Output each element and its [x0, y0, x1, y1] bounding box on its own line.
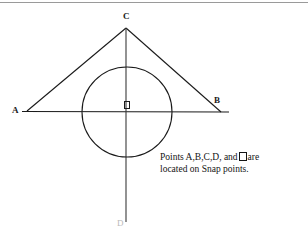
caption-line-1: Points A,B,C,D, andare	[160, 152, 306, 164]
segment-side-CB	[126, 28, 221, 112]
caption-line-2: located on Snap points.	[160, 164, 306, 176]
center-square-marker	[125, 102, 130, 109]
caption-box-glyph-icon	[239, 152, 247, 161]
caption-line-1-after-box: are	[248, 152, 260, 162]
geometry-figure	[0, 0, 308, 238]
vertex-label-b: B	[214, 96, 220, 105]
vertex-label-a: A	[12, 106, 19, 115]
vertex-label-d: D	[117, 219, 124, 228]
vertex-label-c: C	[123, 12, 130, 21]
diagram-canvas: A B C D Points A,B,C,D, andare located o…	[0, 0, 308, 238]
caption-line-1-before-box: Points A,B,C,D, and	[160, 152, 238, 162]
caption-text: Points A,B,C,D, andare located on Snap p…	[160, 152, 306, 175]
